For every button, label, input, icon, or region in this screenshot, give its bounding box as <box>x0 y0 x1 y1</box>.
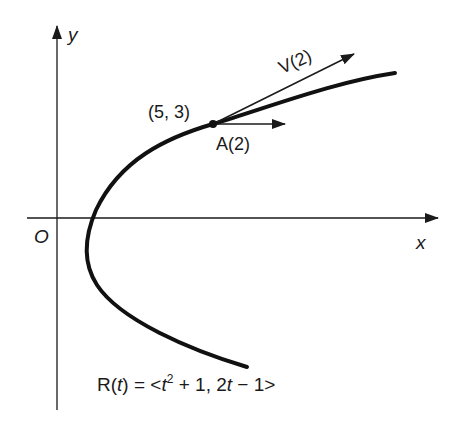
origin-label: O <box>34 226 49 247</box>
acceleration-label: A(2) <box>216 134 250 154</box>
point-marker <box>209 120 217 128</box>
x-axis-label: x <box>415 232 427 253</box>
curve-equation: R(t) = <t2 + 1, 2t − 1> <box>97 372 275 395</box>
parametric-curve-diagram: y x O (5, 3) V(2) A(2) R(t) = <t2 + 1, 2… <box>0 0 452 431</box>
velocity-label: V(2) <box>275 46 314 78</box>
point-label: (5, 3) <box>148 102 190 122</box>
y-axis-label: y <box>66 24 79 45</box>
parametric-curve <box>87 73 395 367</box>
